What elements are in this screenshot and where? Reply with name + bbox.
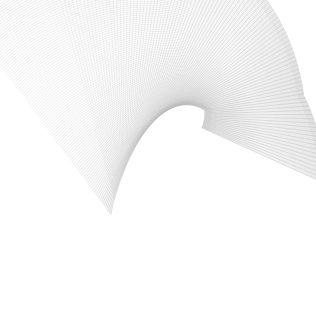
figure-root <box>0 0 316 331</box>
plot-background <box>0 0 316 331</box>
parametric-surface-plot <box>0 0 316 331</box>
